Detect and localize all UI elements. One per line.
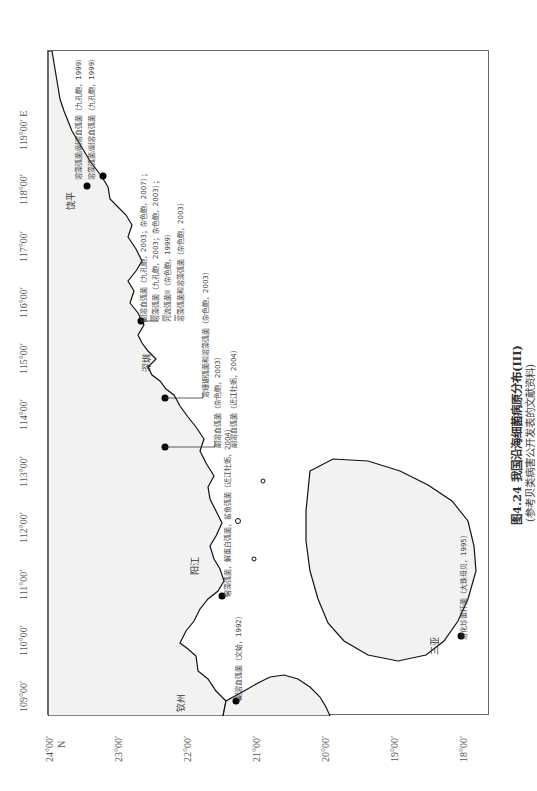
longitude-tick: 109°00′ [18, 681, 29, 712]
annotation-label: 副溶血弧菌（杂色鲍，2003） [212, 353, 222, 448]
latitude-tick: 19°00′ [389, 736, 400, 762]
longitude-tick: 116°00′ [18, 287, 29, 318]
hainan-island [306, 459, 476, 661]
annotation-label: 溶藻弧菌和溶藻弧菌（杂色鲍，2003） [175, 199, 185, 322]
latitude-tick: 21°00′ [251, 736, 262, 762]
longitude-tick: 110°00′ [18, 625, 29, 656]
longitude-tick: 111°00′ [18, 570, 29, 600]
map-frame [47, 50, 489, 715]
longitude-tick: 113°00′ [18, 456, 29, 487]
longitude-tick: 114°00′ [18, 399, 29, 430]
site-dot [84, 183, 91, 190]
annotation-label: 溶化珍蛋杆菌（大珠母贝，1995） [458, 531, 468, 640]
city-label-yangjiang: 阳江 [188, 557, 201, 575]
city-label-qinzhou: 钦州 [174, 694, 187, 712]
annotation-label: 河流弧菌II（杂色鲍，1999） [162, 230, 172, 322]
latitude-tick: 18°00′ [458, 736, 469, 762]
latitude-unit: N [56, 741, 67, 748]
city-label-shenzhen: 深圳 [140, 354, 153, 372]
annotation-label: 副溶血弧菌（文蛤，1992） [233, 612, 243, 700]
figure-caption-subtitle: (参考贝类病害公开发表的文献资料) [522, 364, 537, 522]
coastline-map [48, 51, 490, 716]
longitude-tick: 115°00′ [18, 343, 29, 374]
longitude-tick: 112°00′ [18, 512, 29, 543]
annotation-label: 溶藻弧菌，解蛋白弧菌，鲨鱼弧菌（近江牡蛎，2004） [222, 425, 232, 597]
longitude-tick: 118°00′ [18, 174, 29, 205]
latitude-tick: 23°00′ [113, 736, 124, 762]
annotation-label: 溶珊瑚弧菌和溶藻弧菌（杂色鲍，2003） [200, 268, 210, 398]
latitude-tick: 24°00′ [44, 736, 55, 762]
annotation-label: 溶藻弧菌（九孔鲍，2003；杂色鲍，2003）； [150, 177, 160, 322]
annotation-label: 副溶血弧菌（九孔鲍，2003；杂色鲍，2007）； [138, 170, 148, 322]
site-dot [100, 173, 107, 180]
latitude-tick: 22°00′ [182, 736, 193, 762]
city-label-sanya: 三亚 [428, 637, 441, 655]
longitude-tick: 117°00′ [18, 231, 29, 262]
city-label-raoping: 饶平 [64, 192, 77, 210]
annotation-label: 溶藻弧菌/副溶血弧菌（九孔鲍，1999） [73, 55, 83, 180]
latitude-tick: 20°00′ [320, 736, 331, 762]
annotation-label: 溶藻弧菌/副溶血弧菌（九孔鲍，1999） [86, 55, 96, 180]
longitude-tick: 119°00′ E [18, 111, 29, 150]
